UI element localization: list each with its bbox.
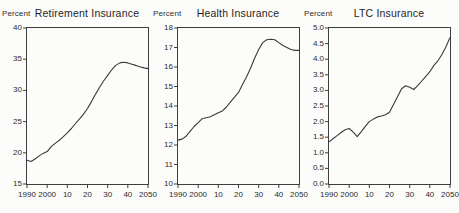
y-tick-label: 20 (13, 149, 22, 157)
y-axis-labels: 403530252015 (0, 27, 26, 185)
x-tick-label: 40 (425, 190, 434, 199)
y-tick-label: 5.0 (313, 24, 324, 32)
x-tick-label: 20 (234, 190, 243, 199)
plot-area (328, 27, 451, 185)
x-tick-label: 20 (385, 190, 394, 199)
x-tick-label: 2050 (441, 190, 459, 199)
x-tick-label: 2000 (38, 190, 56, 199)
x-tick-label: 40 (274, 190, 283, 199)
y-tick-label: 10 (164, 180, 173, 188)
x-tick-label: 2000 (189, 190, 207, 199)
axis-ticks (325, 28, 450, 188)
chart-title: LTC Insurance (326, 7, 452, 19)
y-tick-label: 0.0 (313, 180, 324, 188)
line-chart-svg (27, 28, 148, 184)
y-tick-label: 3.5 (313, 71, 324, 79)
line-chart-svg (178, 28, 299, 184)
y-axis-labels: 181716151413121110 (151, 27, 177, 185)
y-tick-label: 25 (13, 118, 22, 126)
y-tick-label: 2.5 (313, 102, 324, 110)
y-tick-label: 15 (13, 180, 22, 188)
y-tick-label: 0.5 (313, 164, 324, 172)
chart-panel-ltc: Percent LTC Insurance 5.04.54.03.53.02.5… (302, 0, 453, 213)
plot-area (26, 27, 149, 185)
y-tick-label: 13 (164, 122, 173, 130)
y-tick-label: 35 (13, 55, 22, 63)
axis-ticks (174, 28, 299, 188)
x-tick-label: 1990 (320, 190, 338, 199)
chart-header: Percent Retirement Insurance (0, 0, 151, 27)
x-tick-label: 20 (83, 190, 92, 199)
chart-body: 403530252015 (0, 27, 151, 185)
x-tick-label: 10 (214, 190, 223, 199)
y-tick-label: 17 (164, 44, 173, 52)
y-axis-labels: 5.04.54.03.53.02.52.01.51.00.50.0 (302, 27, 328, 185)
chart-body: 5.04.54.03.53.02.52.01.51.00.50.0 (302, 27, 453, 185)
chart-panel-health: Percent Health Insurance 181716151413121… (151, 0, 302, 213)
axis-ticks (23, 28, 148, 188)
y-tick-label: 15 (164, 83, 173, 91)
chart-header: Percent LTC Insurance (302, 0, 453, 27)
y-tick-label: 2.0 (313, 118, 324, 126)
line-chart-svg (329, 28, 450, 184)
x-tick-label: 2000 (340, 190, 358, 199)
data-line (27, 62, 148, 161)
y-tick-label: 4.5 (313, 40, 324, 48)
chart-panel-retirement: Percent Retirement Insurance 40353025201… (0, 0, 151, 213)
y-tick-label: 11 (165, 161, 173, 169)
x-tick-label: 1990 (18, 190, 36, 199)
x-tick-label: 40 (123, 190, 132, 199)
chart-header: Percent Health Insurance (151, 0, 302, 27)
plot-area (177, 27, 300, 185)
data-line (329, 37, 450, 141)
y-tick-label: 16 (164, 63, 173, 71)
y-tick-label: 1.5 (313, 133, 324, 141)
x-tick-label: 1990 (169, 190, 187, 199)
y-tick-label: 40 (13, 24, 22, 32)
y-tick-label: 18 (164, 24, 173, 32)
x-tick-label: 10 (365, 190, 374, 199)
x-axis-labels: 19902000102030402050 (26, 185, 149, 213)
y-tick-label: 30 (13, 86, 22, 94)
x-tick-label: 30 (103, 190, 112, 199)
y-tick-label: 1.0 (313, 149, 324, 157)
x-axis-labels: 19902000102030402050 (177, 185, 300, 213)
y-tick-label: 3.0 (313, 86, 324, 94)
chart-title: Retirement Insurance (24, 7, 150, 19)
y-tick-label: 12 (164, 141, 173, 149)
chart-title: Health Insurance (175, 7, 301, 19)
x-tick-label: 10 (63, 190, 72, 199)
y-tick-label: 4.0 (313, 55, 324, 63)
y-tick-label: 14 (164, 102, 173, 110)
x-tick-label: 30 (405, 190, 414, 199)
chart-body: 181716151413121110 (151, 27, 302, 185)
x-axis-labels: 19902000102030402050 (328, 185, 451, 213)
data-line (178, 39, 299, 140)
x-tick-label: 30 (254, 190, 263, 199)
